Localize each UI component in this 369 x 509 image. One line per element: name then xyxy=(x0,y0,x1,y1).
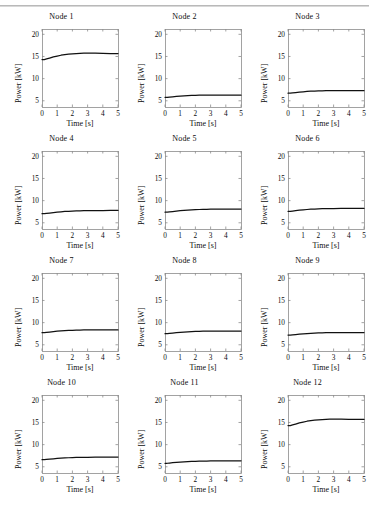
y-axis-label: Power [kW] xyxy=(14,308,23,347)
x-tick-label: 2 xyxy=(317,231,321,240)
x-tick-label: 2 xyxy=(317,475,321,484)
x-tick-label: 2 xyxy=(194,353,198,362)
x-tick-label: 5 xyxy=(116,109,120,118)
subplot-node-4: Node 40123455101520Power [kW]Time [s] xyxy=(0,132,123,254)
data-line-node-12 xyxy=(288,419,364,425)
y-tick-label: 15 xyxy=(32,418,40,427)
x-tick-label: 3 xyxy=(332,353,336,362)
y-tick-label: 15 xyxy=(155,418,163,427)
x-tick-label: 4 xyxy=(101,109,105,118)
x-tick-label: 5 xyxy=(116,475,120,484)
x-tick-label: 1 xyxy=(178,109,182,118)
data-line-node-10 xyxy=(42,457,118,460)
y-tick-label: 5 xyxy=(35,462,39,471)
subplot-node-9: Node 90123455101520Power [kW]Time [s] xyxy=(246,254,369,376)
x-tick-label: 5 xyxy=(362,109,366,118)
x-tick-label: 4 xyxy=(224,109,228,118)
y-tick-label: 5 xyxy=(158,218,162,227)
x-tick-label: 5 xyxy=(116,353,120,362)
x-tick-label: 0 xyxy=(40,475,44,484)
y-tick-label: 15 xyxy=(32,174,40,183)
data-line-node-6 xyxy=(288,208,364,211)
x-tick-label: 5 xyxy=(239,475,243,484)
y-tick-label: 20 xyxy=(32,274,40,283)
x-tick-label: 0 xyxy=(163,353,167,362)
y-tick-label: 20 xyxy=(32,30,40,39)
y-tick-label: 15 xyxy=(32,296,40,305)
x-tick-label: 4 xyxy=(224,231,228,240)
y-tick-label: 10 xyxy=(32,440,40,449)
y-tick-label: 15 xyxy=(32,52,40,61)
y-axis-label: Power [kW] xyxy=(260,308,269,347)
x-tick-label: 2 xyxy=(71,475,75,484)
x-tick-label: 3 xyxy=(209,353,213,362)
subplot-node-6: Node 60123455101520Power [kW]Time [s] xyxy=(246,132,369,254)
y-tick-label: 20 xyxy=(278,30,286,39)
y-tick-label: 10 xyxy=(155,196,163,205)
x-tick-label: 4 xyxy=(101,353,105,362)
x-tick-label: 5 xyxy=(239,353,243,362)
y-axis-label: Power [kW] xyxy=(137,64,146,103)
y-tick-label: 20 xyxy=(278,274,286,283)
y-tick-label: 5 xyxy=(158,96,162,105)
x-tick-label: 5 xyxy=(362,353,366,362)
subplot-node-10: Node 100123455101520Power [kW]Time [s] xyxy=(0,376,123,499)
y-tick-label: 10 xyxy=(278,196,286,205)
y-tick-label: 5 xyxy=(35,96,39,105)
x-tick-label: 1 xyxy=(55,109,59,118)
y-axis-label: Power [kW] xyxy=(260,64,269,103)
x-tick-label: 4 xyxy=(347,353,351,362)
y-tick-label: 20 xyxy=(32,396,40,405)
y-axis-label: Power [kW] xyxy=(137,430,146,469)
x-axis-label: Time [s] xyxy=(42,485,118,494)
x-axis-label: Time [s] xyxy=(165,119,241,128)
x-tick-label: 2 xyxy=(71,231,75,240)
y-tick-label: 10 xyxy=(32,196,40,205)
x-tick-label: 3 xyxy=(86,475,90,484)
x-tick-label: 5 xyxy=(116,231,120,240)
y-tick-label: 10 xyxy=(32,74,40,83)
x-tick-label: 1 xyxy=(178,231,182,240)
y-tick-label: 10 xyxy=(278,440,286,449)
x-tick-label: 4 xyxy=(224,353,228,362)
x-tick-label: 5 xyxy=(362,475,366,484)
y-tick-label: 10 xyxy=(155,318,163,327)
x-tick-label: 3 xyxy=(86,109,90,118)
scan-artifact-line-secondary xyxy=(0,6,369,7)
x-tick-label: 1 xyxy=(178,353,182,362)
y-tick-label: 5 xyxy=(281,462,285,471)
x-tick-label: 3 xyxy=(209,231,213,240)
y-tick-label: 15 xyxy=(278,174,286,183)
x-tick-label: 5 xyxy=(362,231,366,240)
y-axis-label: Power [kW] xyxy=(260,430,269,469)
subplot-node-3: Node 30123455101520Power [kW]Time [s] xyxy=(246,10,369,132)
y-axis-label: Power [kW] xyxy=(14,186,23,225)
x-tick-label: 1 xyxy=(301,475,305,484)
y-tick-label: 5 xyxy=(281,340,285,349)
x-tick-label: 3 xyxy=(332,231,336,240)
y-axis-label: Power [kW] xyxy=(137,186,146,225)
axes-frame xyxy=(43,274,119,352)
subplot-node-1: Node 10123455101520Power [kW]Time [s] xyxy=(0,10,123,132)
x-tick-label: 4 xyxy=(347,109,351,118)
x-tick-label: 2 xyxy=(194,109,198,118)
axes-frame xyxy=(289,396,365,474)
axes-frame xyxy=(166,152,242,230)
y-tick-label: 20 xyxy=(278,396,286,405)
data-line-node-5 xyxy=(165,209,241,212)
axes-frame xyxy=(166,274,242,352)
y-tick-label: 10 xyxy=(278,74,286,83)
axes-frame xyxy=(43,396,119,474)
data-line-node-9 xyxy=(288,333,364,336)
x-tick-label: 4 xyxy=(224,475,228,484)
x-tick-label: 2 xyxy=(317,353,321,362)
x-tick-label: 4 xyxy=(347,475,351,484)
x-axis-label: Time [s] xyxy=(288,363,364,372)
x-tick-label: 3 xyxy=(209,109,213,118)
x-tick-label: 1 xyxy=(178,475,182,484)
x-axis-label: Time [s] xyxy=(288,119,364,128)
x-tick-label: 0 xyxy=(163,109,167,118)
data-line-node-4 xyxy=(42,210,118,213)
data-line-node-7 xyxy=(42,330,118,333)
subplot-node-12: Node 120123455101520Power [kW]Time [s] xyxy=(246,376,369,499)
